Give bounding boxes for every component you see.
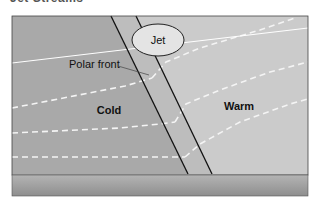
cold-label: Cold: [97, 104, 121, 116]
polar-front-label: Polar front: [69, 58, 120, 70]
warm-label: Warm: [224, 100, 254, 112]
ground-surface: [12, 175, 308, 196]
jet-label: Jet: [151, 34, 166, 46]
polar-front-jet-diagram: Jet Polar front Cold Warm: [0, 0, 314, 202]
